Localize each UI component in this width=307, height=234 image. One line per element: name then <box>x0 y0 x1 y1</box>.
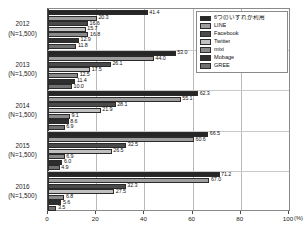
category-year: 2013 <box>0 60 45 69</box>
bar-2016-Twitter[interactable] <box>48 189 114 194</box>
bar-value-label: 11.8 <box>78 43 88 48</box>
bar-2016-mixi[interactable] <box>48 195 64 200</box>
bar-2015-GREE[interactable] <box>48 165 60 170</box>
bar-row: 27.5 <box>48 189 289 194</box>
legend-label: mixi <box>214 47 224 53</box>
bar-row: 4.9 <box>48 165 289 170</box>
legend-item-LINE[interactable]: LINE <box>200 22 284 29</box>
bar-2014-LINE[interactable] <box>48 97 181 102</box>
legend-item-Mobage[interactable]: Mobage <box>200 54 284 61</box>
bar-row: 66.5 <box>48 132 289 137</box>
bar-2014-GREE[interactable] <box>48 125 65 130</box>
bar-value-label: 6.9 <box>66 124 73 129</box>
legend-item-6つのいずれか利用[interactable]: 6つのいずれか利用 <box>200 15 284 22</box>
category-year: 2015 <box>0 141 45 150</box>
bar-2014-mixi[interactable] <box>48 114 70 119</box>
x-tick <box>143 211 144 214</box>
category-year: 2012 <box>0 19 45 28</box>
legend-item-Twitter[interactable]: Twitter <box>200 38 284 45</box>
category-year: 2014 <box>0 101 45 110</box>
bar-2015-mixi[interactable] <box>48 154 65 159</box>
bar-row: 55.1 <box>48 97 289 102</box>
bar-row: 26.5 <box>48 149 289 154</box>
legend-label: Facebook <box>214 31 239 37</box>
bar-value-label: 41.4 <box>149 10 159 15</box>
legend-swatch <box>200 39 211 44</box>
bar-value-label: 16.8 <box>90 32 100 37</box>
bar-value-label: 10.0 <box>74 84 84 89</box>
bar-2015-Mobage[interactable] <box>48 160 62 165</box>
x-tick <box>47 211 48 214</box>
chart-legend: 6つのいずれか利用LINEFacebookTwittermixiMobageGR… <box>196 11 288 73</box>
bar-value-label: 44.0 <box>156 56 166 61</box>
bar-2014-6つのいずれか利用[interactable] <box>48 91 198 96</box>
bar-2013-LINE[interactable] <box>48 56 154 61</box>
bar-row: 28.1 <box>48 102 289 107</box>
bar-value-label: 26.5 <box>113 148 123 153</box>
bar-row: 11.4 <box>48 79 289 84</box>
x-tick-label: 40 <box>140 215 147 222</box>
bar-2013-GREE[interactable] <box>48 84 72 89</box>
bar-value-label: 53.0 <box>177 50 187 55</box>
category-label-2013: 2013(N=1,500) <box>0 60 45 79</box>
bar-value-label: 71.2 <box>221 172 231 177</box>
bar-value-label: 66.5 <box>210 131 220 136</box>
legend-swatch <box>200 55 211 60</box>
legend-swatch <box>200 47 211 52</box>
bar-value-label: 20.3 <box>98 15 108 20</box>
x-tick <box>240 211 241 214</box>
bar-value-label: 32.5 <box>128 143 138 148</box>
bar-2013-mixi[interactable] <box>48 73 78 78</box>
bar-value-label: 28.1 <box>117 102 127 107</box>
bar-row: 62.3 <box>48 91 289 96</box>
x-tick-label: 20 <box>92 215 99 222</box>
legend-label: GREE <box>214 63 230 69</box>
x-tick <box>192 211 193 214</box>
bar-value-label: 60.6 <box>196 137 206 142</box>
bar-2016-6つのいずれか利用[interactable] <box>48 172 220 177</box>
bar-2012-Twitter[interactable] <box>48 27 86 32</box>
bar-row: 6.9 <box>48 154 289 159</box>
chart-container: 41.420.316.615.716.812.911.853.044.026.1… <box>0 0 307 234</box>
bar-2012-Mobage[interactable] <box>48 38 79 43</box>
bar-row: 6.9 <box>48 125 289 130</box>
bar-2015-Twitter[interactable] <box>48 149 112 154</box>
category-sample-size: (N=1,500) <box>0 69 45 78</box>
bar-row: 67.0 <box>48 178 289 183</box>
bar-2013-Mobage[interactable] <box>48 79 75 84</box>
bar-value-label: 55.1 <box>182 96 192 101</box>
bar-value-label: 67.0 <box>211 178 221 183</box>
legend-item-GREE[interactable]: GREE <box>200 62 284 69</box>
legend-item-Facebook[interactable]: Facebook <box>200 30 284 37</box>
legend-label: LINE <box>214 23 226 29</box>
x-tick-label: 0 <box>45 215 48 222</box>
category-sample-size: (N=1,500) <box>0 29 45 38</box>
bar-group-2015: 66.560.632.526.56.96.04.9 <box>48 132 289 171</box>
legend-label: Mobage <box>214 55 234 61</box>
bar-row: 5.6 <box>48 200 289 205</box>
bar-row: 10.0 <box>48 84 289 89</box>
bar-value-label: 32.3 <box>127 183 137 188</box>
legend-item-mixi[interactable]: mixi <box>200 46 284 53</box>
legend-label: 6つのいずれか利用 <box>214 15 265 21</box>
bar-value-label: 21.9 <box>102 108 112 113</box>
x-axis: 020406080100(%) <box>47 211 290 227</box>
bar-2016-Facebook[interactable] <box>48 184 126 189</box>
x-tick <box>288 211 289 214</box>
legend-swatch <box>200 63 211 68</box>
category-sample-size: (N=1,500) <box>0 191 45 200</box>
bar-2012-GREE[interactable] <box>48 44 76 49</box>
bar-value-label: 27.5 <box>116 189 126 194</box>
bar-row: 21.9 <box>48 108 289 113</box>
bar-2015-LINE[interactable] <box>48 137 194 142</box>
x-tick-label: 100 <box>283 215 293 222</box>
bar-2015-6つのいずれか利用[interactable] <box>48 132 208 137</box>
bar-value-label: 17.5 <box>92 67 102 72</box>
bar-group-2014: 62.355.128.121.99.18.66.9 <box>48 91 289 130</box>
x-tick <box>95 211 96 214</box>
x-tick-label: 60 <box>188 215 195 222</box>
bar-row: 60.6 <box>48 137 289 142</box>
bar-group-2016: 71.267.032.327.56.85.63.5 <box>48 172 289 211</box>
category-label-2014: 2014(N=1,500) <box>0 101 45 120</box>
bar-2012-Facebook[interactable] <box>48 21 88 26</box>
